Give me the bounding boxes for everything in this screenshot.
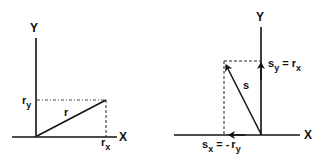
right-diagram: Y X s sy = rx sx = -ry: [174, 10, 312, 154]
vector-rotation-figure: Y X r ry rx Y X s sy = rx sx = -ry: [0, 0, 324, 164]
left-y-axis-label: Y: [30, 21, 38, 35]
right-y-axis-label: Y: [256, 10, 264, 24]
vector-s-label: s: [243, 79, 249, 91]
sy-equals-rx-label: sy = rx: [268, 57, 301, 73]
vector-r-label: r: [64, 106, 69, 118]
vector-r: [37, 100, 106, 136]
vector-s: [226, 65, 261, 134]
sx-equals-neg-ry-label: sx = -ry: [202, 138, 241, 154]
ry-label: ry: [22, 94, 31, 110]
rx-label: rx: [101, 136, 110, 152]
right-x-axis-label: X: [304, 128, 312, 142]
left-diagram: Y X r ry rx: [12, 21, 127, 152]
left-x-axis-label: X: [119, 130, 127, 144]
